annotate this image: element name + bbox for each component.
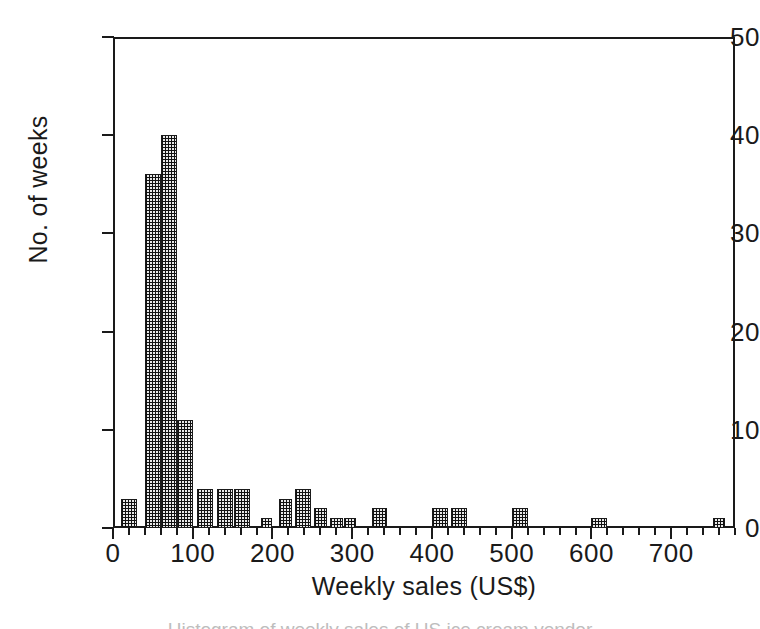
x-axis-minor-tick [559, 528, 561, 535]
histogram-bar [121, 499, 137, 528]
bars-container [113, 37, 735, 528]
x-axis-minor-tick [575, 528, 577, 535]
histogram-figure: 0100200300400500600700 01020304050 Weekl… [0, 0, 760, 629]
x-axis-minor-tick [479, 528, 481, 535]
histogram-bar [314, 508, 327, 528]
x-axis-minor-tick [447, 528, 449, 535]
y-axis-tick-label: 50 [664, 22, 760, 53]
x-axis-tick-label: 300 [330, 538, 375, 569]
x-axis-minor-tick [654, 528, 656, 535]
x-axis-minor-tick [335, 528, 337, 535]
x-axis-minor-tick [463, 528, 465, 535]
histogram-bar [330, 518, 343, 528]
x-axis-minor-tick [495, 528, 497, 535]
histogram-bar [177, 420, 193, 528]
y-axis-major-tick [102, 429, 114, 431]
x-axis-minor-tick [399, 528, 401, 535]
y-axis-tick-label: 10 [664, 414, 760, 445]
y-axis-major-tick [102, 232, 114, 234]
x-axis-label: Weekly sales (US$) [113, 572, 735, 601]
x-axis-minor-tick [144, 528, 146, 535]
x-axis-minor-tick [287, 528, 289, 535]
y-axis-tick-label: 0 [664, 513, 760, 544]
histogram-bar [145, 174, 161, 528]
x-axis-tick-label: 600 [569, 538, 614, 569]
y-axis-tick-label: 40 [664, 120, 760, 151]
x-axis-minor-tick [527, 528, 529, 535]
y-axis-major-tick [102, 527, 114, 529]
x-axis-tick-label: 100 [170, 538, 215, 569]
histogram-bar [234, 489, 250, 528]
x-axis-minor-tick [367, 528, 369, 535]
x-axis-minor-tick [208, 528, 210, 535]
x-axis-minor-tick [415, 528, 417, 535]
y-axis-tick-label: 20 [664, 316, 760, 347]
x-axis-minor-tick [240, 528, 242, 535]
histogram-bar [261, 518, 273, 528]
x-axis-minor-tick [224, 528, 226, 535]
histogram-bar [591, 518, 607, 528]
histogram-bar [432, 508, 448, 528]
histogram-bar [451, 508, 467, 528]
x-axis-tick-label: 200 [250, 538, 295, 569]
y-axis-major-tick [102, 331, 114, 333]
histogram-bar [295, 489, 311, 528]
x-axis-minor-tick [176, 528, 178, 535]
figure-caption-partial: Histogram of weekly sales of US ice crea… [0, 619, 760, 629]
y-axis-major-tick [102, 134, 114, 136]
x-axis-minor-tick [160, 528, 162, 535]
x-axis-minor-tick [303, 528, 305, 535]
x-axis-tick-label: 500 [489, 538, 534, 569]
x-axis-minor-tick [622, 528, 624, 535]
x-axis-minor-tick [606, 528, 608, 535]
x-axis-minor-tick [319, 528, 321, 535]
histogram-bar [217, 489, 233, 528]
histogram-bar [279, 499, 293, 528]
histogram-bar [372, 508, 386, 528]
histogram-bar [161, 135, 177, 528]
x-axis-minor-tick [256, 528, 258, 535]
histogram-bar [197, 489, 213, 528]
histogram-bar [344, 518, 356, 528]
histogram-bar [512, 508, 528, 528]
x-axis-tick-label: 400 [410, 538, 455, 569]
y-axis-tick-label: 30 [664, 218, 760, 249]
x-axis-tick-label: 0 [106, 538, 121, 569]
x-axis-minor-tick [128, 528, 130, 535]
x-axis-minor-tick [543, 528, 545, 535]
y-axis-label: No. of weeks [24, 70, 53, 310]
x-axis-minor-tick [383, 528, 385, 535]
y-axis-major-tick [102, 36, 114, 38]
x-axis-minor-tick [638, 528, 640, 535]
